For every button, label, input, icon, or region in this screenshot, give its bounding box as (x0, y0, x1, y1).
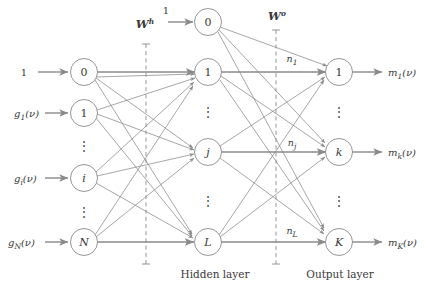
node-in-bias-label: 0 (81, 66, 88, 79)
output-label-1-arg: (ν) (402, 67, 416, 78)
edges-hidden-to-output (218, 27, 327, 242)
node-in-1-label: 1 (81, 107, 88, 120)
edge-hidL-out1 (219, 80, 324, 235)
output-arrows (352, 72, 382, 242)
caption-output-layer: Output layer (306, 268, 374, 280)
output-label-k: mk(ν) (388, 147, 416, 161)
node-out-1[interactable]: 1 (326, 59, 353, 86)
edge-in0-hidL (95, 80, 192, 234)
input-label-N: gN(ν) (8, 237, 35, 251)
edge-label-nL: nL (286, 225, 297, 239)
weight-label-hidden: Wh (136, 17, 154, 31)
node-out-k-label: k (336, 146, 343, 159)
node-hid-1[interactable]: 1 (195, 59, 222, 86)
output-label-k-base: m (388, 147, 397, 158)
edge-ini-hidL (96, 183, 193, 238)
node-in-1[interactable]: 1 (71, 100, 98, 127)
output-label-k-arg: (ν) (402, 147, 416, 158)
output-ellipsis-2: ⋮ (333, 194, 345, 208)
neural-network-diagram: 0 1 i N ⋮ ⋮ 0 1 j L (0, 0, 437, 295)
network-canvas: 0 1 i N ⋮ ⋮ 0 1 j L (0, 0, 437, 295)
edge-in0-hidj (96, 78, 193, 148)
hidden-ellipsis-1: ⋮ (202, 105, 214, 119)
input-ellipsis-1: ⋮ (78, 139, 90, 153)
output-label-K-arg: (ν) (403, 237, 417, 248)
node-out-K[interactable]: K (326, 229, 353, 256)
node-in-N-label: N (78, 236, 89, 249)
weight-output-base: W (268, 9, 282, 23)
node-hid-1-label: 1 (205, 66, 212, 79)
input-label-N-arg: (ν) (21, 237, 35, 248)
node-hid-L-label: L (203, 236, 211, 249)
node-out-K-label: K (334, 236, 344, 249)
caption-hidden-layer: Hidden layer (180, 268, 250, 280)
output-layer-nodes: 1 k K ⋮ ⋮ (326, 59, 353, 256)
hidden-layer-nodes: 0 1 j L ⋮ ⋮ (195, 9, 222, 256)
edge-hid0-outk (219, 30, 325, 143)
output-label-K-base: m (388, 237, 397, 248)
input-label-bias: 1 (21, 67, 27, 78)
edge-inN-hidj (96, 158, 194, 237)
output-ellipsis-1: ⋮ (333, 105, 345, 119)
node-out-1-label: 1 (336, 66, 343, 79)
edges-input-to-hidden (95, 74, 195, 242)
hidden-bias-signal-label: 1 (163, 5, 169, 16)
edge-hid0-out1 (220, 27, 327, 66)
input-ellipsis-2: ⋮ (78, 205, 90, 219)
node-hid-j[interactable]: j (195, 139, 222, 166)
input-label-1-arg: (ν) (25, 108, 39, 119)
weight-hidden-base: W (136, 17, 150, 31)
weight-output-sup: o (281, 9, 286, 18)
output-label-1-base: m (388, 67, 397, 78)
edge-in0-hid1 (96, 74, 195, 77)
separator-hidden (142, 44, 150, 264)
input-label-1: g1(ν) (14, 108, 39, 122)
node-out-k[interactable]: k (326, 139, 353, 166)
node-in-i[interactable]: i (71, 165, 98, 192)
weight-label-output: Wo (268, 9, 286, 23)
node-hid-L[interactable]: L (195, 229, 222, 256)
svg-text:Wh: Wh (136, 17, 154, 31)
edge-label-nL-sub: L (292, 230, 298, 239)
edge-label-n1-sub: 1 (293, 58, 298, 67)
input-arrows (38, 72, 68, 242)
input-label-i-arg: (ν) (23, 173, 37, 184)
edge-in1-hidj (97, 114, 194, 150)
hidden-ellipsis-2: ⋮ (202, 194, 214, 208)
output-label-1: m1(ν) (388, 67, 416, 81)
edge-hidL-outk (220, 157, 325, 237)
svg-text:Wo: Wo (268, 9, 286, 23)
edge-in1-hidL (96, 118, 192, 236)
svg-text:nL: nL (286, 225, 297, 239)
weight-hidden-sup: h (149, 17, 154, 26)
node-in-N[interactable]: N (71, 229, 98, 256)
edge-label-nj: nj (288, 137, 297, 151)
output-signal-labels: m1(ν) mk(ν) mK(ν) (388, 67, 417, 251)
input-label-i: gi(ν) (14, 173, 37, 187)
svg-text:nj: nj (288, 137, 297, 151)
node-in-i-label: i (82, 172, 86, 185)
node-hid-bias-label: 0 (205, 16, 212, 29)
node-hid-bias[interactable]: 0 (195, 9, 222, 36)
node-in-bias[interactable]: 0 (71, 59, 98, 86)
input-layer-nodes: 0 1 i N ⋮ ⋮ (71, 59, 98, 256)
output-label-K: mK(ν) (388, 237, 417, 251)
